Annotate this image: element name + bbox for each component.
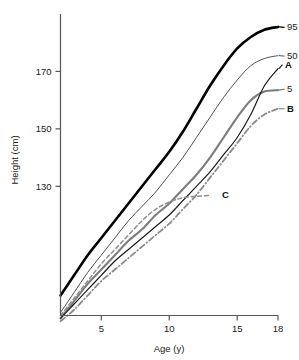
x-tick-label: 10 <box>164 323 175 334</box>
curve-label-a: A <box>285 59 292 70</box>
chart-canvas: 130150170 5101518 95505ABC Age (y) Heigh… <box>0 0 299 360</box>
curve-label-b: B <box>287 103 294 114</box>
y-tick-label: 130 <box>36 181 52 192</box>
axes <box>56 14 279 321</box>
y-axis-title: Height (cm) <box>9 135 20 184</box>
x-tick-label: 18 <box>273 323 284 334</box>
curve-leader-5 <box>279 89 285 90</box>
curve-leader-a <box>279 65 283 69</box>
curve-label-c: C <box>222 189 229 200</box>
curve-leader-50 <box>279 56 285 57</box>
curve-95 <box>61 27 279 295</box>
growth-chart: 130150170 5101518 95505ABC Age (y) Heigh… <box>0 0 299 360</box>
plot-area <box>61 27 285 321</box>
y-tick-label-group: 130150170 <box>36 66 52 192</box>
x-axis-ticks <box>101 316 278 321</box>
curve-label-5: 5 <box>287 83 292 94</box>
y-tick-label: 150 <box>36 123 52 134</box>
curve-50 <box>61 56 279 313</box>
x-axis-title: Age (y) <box>154 343 185 354</box>
x-tick-label-group: 5101518 <box>99 323 284 334</box>
x-tick-label: 5 <box>99 323 104 334</box>
y-axis-ticks <box>56 71 61 186</box>
curve-label-group: 95505ABC <box>222 21 298 200</box>
curve-leader-95 <box>279 27 285 28</box>
y-tick-label: 170 <box>36 66 52 77</box>
x-tick-label: 15 <box>232 323 243 334</box>
curve-group <box>61 27 285 321</box>
curve-label-95: 95 <box>287 21 298 32</box>
